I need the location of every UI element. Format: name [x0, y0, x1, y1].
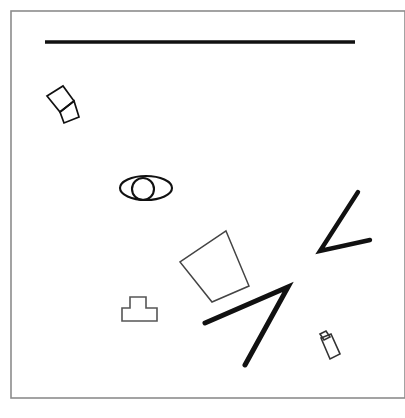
scene-root: [0, 0, 405, 418]
scene-canvas: [0, 0, 405, 418]
scene-background: [0, 0, 405, 418]
